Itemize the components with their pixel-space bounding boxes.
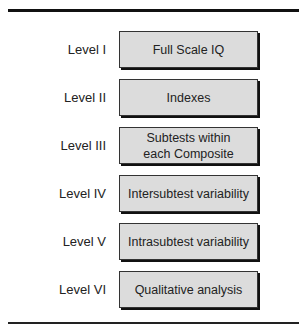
level-row-1: Level I Full Scale IQ xyxy=(0,31,299,69)
level-row-3: Level III Subtests within each Composite xyxy=(0,127,299,165)
bottom-rule xyxy=(8,322,299,324)
level-label: Level II xyxy=(64,79,106,117)
top-rule xyxy=(8,9,299,12)
level-row-5: Level V Intrasubtest variability xyxy=(0,223,299,261)
level-box: Intrasubtest variability xyxy=(119,223,258,260)
level-box: Full Scale IQ xyxy=(119,31,258,68)
level-label: Level VI xyxy=(59,271,106,309)
level-box: Subtests within each Composite xyxy=(119,127,258,164)
level-box: Qualitative analysis xyxy=(119,271,258,308)
level-box: Intersubtest variability xyxy=(119,175,258,212)
level-row-6: Level VI Qualitative analysis xyxy=(0,271,299,309)
level-label: Level I xyxy=(68,31,106,69)
level-label: Level IV xyxy=(59,175,106,213)
level-row-4: Level IV Intersubtest variability xyxy=(0,175,299,213)
level-label: Level V xyxy=(63,223,106,261)
level-row-2: Level II Indexes xyxy=(0,79,299,117)
level-box: Indexes xyxy=(119,79,258,116)
level-label: Level III xyxy=(60,127,106,165)
